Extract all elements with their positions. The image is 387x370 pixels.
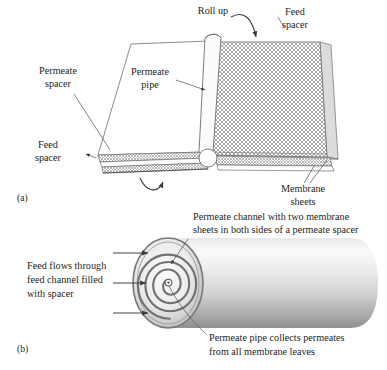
- label-permeate-spacer-line1: Permeate: [39, 65, 77, 76]
- label-permeate-channel-line1: Permeate channel with two membrane: [193, 211, 350, 222]
- panel-a-tag: (a): [17, 192, 28, 204]
- label-feed-flows-line1: Feed flows through: [27, 260, 106, 271]
- label-permeate-channel-line2: sheets in both sides of a permeate space…: [193, 224, 359, 235]
- bottom-strip-right-membrane: [217, 165, 334, 171]
- label-permeate-pipe-line1: Permeate: [131, 66, 169, 77]
- label-permeate-spacer-line2: spacer: [45, 78, 72, 89]
- label-permeate-collects-line2: from all membrane leaves: [209, 346, 315, 357]
- label-permeate-pipe-line2: pipe: [141, 79, 159, 90]
- feed-spacer-sheet-stack: [205, 42, 338, 163]
- label-feed-spacer-left-line1: Feed: [38, 139, 58, 150]
- label-feed-spacer-top-line1: Feed: [285, 6, 305, 17]
- bottom-strip-right-mesh: [215, 156, 332, 166]
- label-roll-up: Roll up: [198, 5, 228, 16]
- permeate-pipe-end-circle: [199, 149, 217, 167]
- label-membrane-sheets-line2: sheets: [291, 196, 316, 207]
- permeate-pipe-bore: [167, 282, 169, 284]
- label-feed-flows-line2: feed channel filled: [27, 274, 103, 285]
- label-membrane-sheets-line1: Membrane: [281, 183, 326, 194]
- label-permeate-collects-line1: Permeate pipe collects permeates: [209, 332, 345, 343]
- panel-b-tag: (b): [17, 343, 28, 355]
- label-feed-spacer-left-line2: spacer: [35, 152, 62, 163]
- spiral-wound-membrane-figure: Permeate spacer Permeate pipe Feed space…: [0, 0, 387, 370]
- feed-spacer-mesh-face: [205, 42, 327, 157]
- label-feed-flows-line3: with spacer: [27, 288, 74, 299]
- label-feed-spacer-top-line2: spacer: [282, 19, 309, 30]
